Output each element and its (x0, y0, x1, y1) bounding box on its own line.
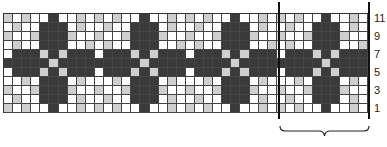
chart-cell (240, 95, 249, 104)
chart-cell (13, 23, 22, 32)
chart-cell (49, 86, 58, 95)
chart-cell (77, 77, 86, 86)
chart-cell (186, 32, 195, 41)
chart-cell (286, 50, 295, 59)
chart-cell (140, 68, 149, 77)
chart-cell (168, 77, 177, 86)
chart-grid (3, 13, 368, 113)
chart-cell (122, 41, 131, 50)
chart-cell (322, 32, 331, 41)
chart-cell (4, 32, 13, 41)
chart-cell (22, 32, 31, 41)
chart-cell (340, 14, 349, 23)
chart-cell (113, 23, 122, 32)
chart-cell (113, 41, 122, 50)
chart-cell (59, 59, 68, 68)
chart-cell (231, 50, 240, 59)
chart-cell (186, 59, 195, 68)
chart-cell (259, 77, 268, 86)
chart-cell (13, 32, 22, 41)
chart-cell (95, 14, 104, 23)
chart-cell (59, 41, 68, 50)
chart-cell (240, 104, 249, 113)
chart-cell (204, 23, 213, 32)
chart-cell (4, 77, 13, 86)
chart-cell (231, 77, 240, 86)
chart-cell (204, 68, 213, 77)
chart-cell (340, 104, 349, 113)
chart-cell (22, 86, 31, 95)
chart-cell (259, 95, 268, 104)
chart-cell (313, 77, 322, 86)
chart-cell (159, 14, 168, 23)
chart-cell (86, 77, 95, 86)
chart-cell (286, 104, 295, 113)
chart-cell (31, 68, 40, 77)
chart-cell (340, 59, 349, 68)
chart-cell (177, 68, 186, 77)
chart-cell (59, 77, 68, 86)
chart-cell (59, 50, 68, 59)
chart-cell (49, 23, 58, 32)
chart-cell (40, 77, 49, 86)
chart-cell (131, 68, 140, 77)
chart-cell (259, 50, 268, 59)
chart-cell (59, 95, 68, 104)
chart-cell (104, 41, 113, 50)
chart-cell (13, 41, 22, 50)
chart-cell (322, 59, 331, 68)
chart-cell (168, 14, 177, 23)
chart-cell (195, 50, 204, 59)
chart-cell (350, 77, 359, 86)
chart-cell (68, 104, 77, 113)
chart-cell (313, 95, 322, 104)
chart-cell (59, 86, 68, 95)
chart-cell (350, 59, 359, 68)
chart-cell (131, 41, 140, 50)
chart-cell (213, 14, 222, 23)
chart-cell (222, 50, 231, 59)
repeat-start-line (278, 2, 280, 119)
chart-cell (340, 50, 349, 59)
chart-cell (313, 23, 322, 32)
chart-cell (213, 86, 222, 95)
chart-cell (49, 14, 58, 23)
chart-cell (350, 41, 359, 50)
chart-cell (359, 95, 368, 104)
chart-cell (40, 86, 49, 95)
chart-cell (59, 23, 68, 32)
chart-cell (31, 95, 40, 104)
chart-cell (22, 14, 31, 23)
chart-cell (322, 23, 331, 32)
chart-cell (295, 77, 304, 86)
chart-cell (122, 104, 131, 113)
chart-cell (13, 59, 22, 68)
chart-cell (186, 86, 195, 95)
chart-cell (359, 104, 368, 113)
chart-cell (122, 77, 131, 86)
chart-cell (113, 50, 122, 59)
chart-cell (177, 104, 186, 113)
chart-cell (131, 104, 140, 113)
chart-cell (68, 50, 77, 59)
chart-cell (186, 14, 195, 23)
chart-cell (204, 59, 213, 68)
chart-cell (40, 14, 49, 23)
chart-cell (295, 95, 304, 104)
chart-cell (13, 104, 22, 113)
chart-cell (77, 68, 86, 77)
chart-cell (250, 104, 259, 113)
chart-cell (222, 41, 231, 50)
chart-cell (4, 23, 13, 32)
chart-cell (259, 86, 268, 95)
chart-cell (86, 86, 95, 95)
chart-cell (177, 77, 186, 86)
chart-cell (131, 50, 140, 59)
chart-cell (168, 59, 177, 68)
chart-cell (113, 95, 122, 104)
chart-cell (250, 14, 259, 23)
chart-cell (359, 41, 368, 50)
chart-cell (295, 50, 304, 59)
chart-cell (240, 86, 249, 95)
chart-cell (150, 14, 159, 23)
